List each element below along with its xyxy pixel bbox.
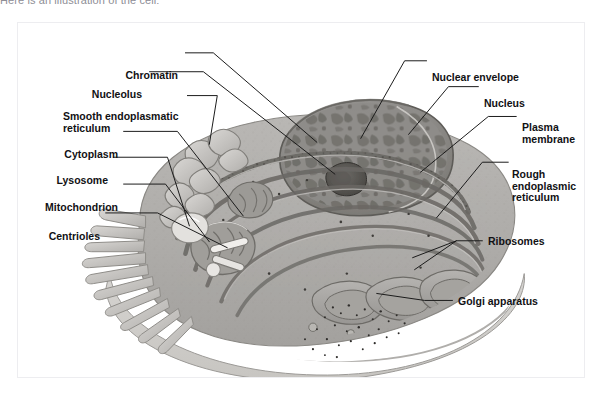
label-nucleolus: Nucleolus [18, 89, 142, 101]
label-rough-endoplasmic-reticulum: Rough endoplasmic reticulum [512, 169, 592, 204]
caption-text: Here is an illustration of the cell: [0, 0, 160, 6]
label-nucleus: Nucleus [484, 98, 574, 110]
label-plasma-membrane: Plasma membrane [522, 122, 592, 145]
lysosome-secondary [206, 263, 220, 277]
label-lysosome: Lysosome [18, 175, 108, 187]
label-golgi-apparatus: Golgi apparatus [458, 296, 578, 308]
caption-strip: Here is an illustration of the cell: [0, 0, 607, 9]
label-ribosomes: Ribosomes [488, 236, 578, 248]
label-nuclear-envelope: Nuclear envelope [432, 72, 562, 84]
label-chromatin: Chromatin [18, 70, 178, 82]
label-smooth-endoplasmatic-reticulum: Smooth endoplasmatic reticulum [63, 111, 188, 134]
label-centrioles: Centrioles [18, 231, 100, 243]
cell-diagram-figure: Chromatin Nucleolus Smooth endoplasmatic… [17, 22, 585, 378]
label-mitochondrion: Mitochondrion [18, 202, 118, 214]
label-cytoplasm: Cytoplasm [18, 149, 118, 161]
